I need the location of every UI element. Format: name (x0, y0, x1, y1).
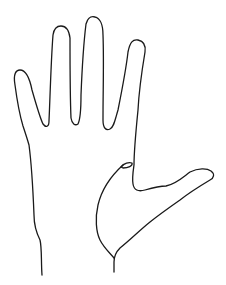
hand-fingers-outline (14, 17, 213, 275)
hand-outline-icon (0, 0, 226, 285)
thumb-base-outline (96, 165, 123, 258)
junction-loop (121, 163, 132, 168)
hand-drawing (0, 0, 226, 285)
